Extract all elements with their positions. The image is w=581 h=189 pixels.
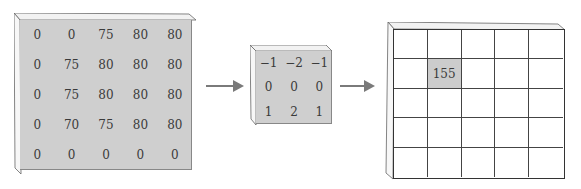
arrow-right-icon [340, 85, 373, 87]
output-cell [428, 30, 462, 59]
kernel-cell: 0 [281, 75, 306, 99]
input-cell: 80 [123, 110, 157, 140]
kernel-cell: 0 [256, 75, 281, 99]
kernel-cell: 2 [281, 100, 306, 124]
input-cell: 80 [89, 80, 123, 110]
kernel-cell: 1 [307, 100, 332, 124]
output-cell [394, 89, 428, 118]
output-cell-highlighted: 155 [428, 59, 462, 88]
output-cell [495, 30, 529, 59]
input-cell: 75 [89, 20, 123, 50]
input-cell: 0 [158, 140, 192, 170]
input-cell: 0 [54, 20, 88, 50]
kernel-cell: −1 [256, 51, 281, 75]
kernel-face: −1 −2 −1 0 0 0 1 2 1 [256, 51, 332, 124]
arrow-right-icon [206, 85, 242, 87]
input-cell: 75 [89, 110, 123, 140]
input-cell: 80 [158, 50, 192, 80]
input-cell: 0 [89, 140, 123, 170]
input-cell: 0 [20, 50, 54, 80]
output-cell [495, 118, 529, 147]
input-matrix-face: 0 0 75 80 80 0 75 80 80 80 0 75 80 80 80… [20, 20, 192, 170]
output-cell [428, 118, 462, 147]
output-cell [462, 59, 496, 88]
input-cell: 80 [158, 110, 192, 140]
output-cell [529, 89, 563, 118]
output-cell [462, 148, 496, 177]
output-cell [495, 148, 529, 177]
output-cell [462, 118, 496, 147]
output-cell [462, 30, 496, 59]
input-cell: 0 [20, 80, 54, 110]
output-cell [428, 148, 462, 177]
input-cell: 0 [54, 140, 88, 170]
input-cell: 80 [158, 80, 192, 110]
kernel-cell: −2 [281, 51, 306, 75]
output-cell [394, 148, 428, 177]
input-cell: 0 [20, 140, 54, 170]
output-cell [529, 30, 563, 59]
kernel-cell: −1 [307, 51, 332, 75]
input-cell: 80 [123, 80, 157, 110]
input-cell: 75 [54, 80, 88, 110]
output-cell [428, 89, 462, 118]
output-cell [529, 59, 563, 88]
input-cell: 0 [20, 110, 54, 140]
input-cell: 0 [20, 20, 54, 50]
output-cell [394, 30, 428, 59]
output-cell [394, 118, 428, 147]
output-cell [495, 59, 529, 88]
input-cell: 70 [54, 110, 88, 140]
kernel-cell: 0 [307, 75, 332, 99]
input-cell: 80 [123, 50, 157, 80]
output-cell [495, 89, 529, 118]
input-matrix-top-edge [14, 13, 197, 20]
input-cell: 80 [89, 50, 123, 80]
input-cell: 0 [123, 140, 157, 170]
output-cell [529, 118, 563, 147]
output-matrix-face: 155 [393, 29, 565, 179]
output-cell [529, 148, 563, 177]
output-cell [394, 59, 428, 88]
output-cell [462, 89, 496, 118]
kernel-cell: 1 [256, 100, 281, 124]
input-cell: 75 [54, 50, 88, 80]
input-cell: 80 [158, 20, 192, 50]
input-cell: 80 [123, 20, 157, 50]
